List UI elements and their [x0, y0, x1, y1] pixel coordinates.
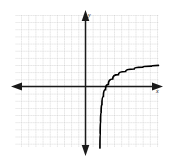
graph-figure: y x [0, 0, 169, 163]
y-axis-arrow-down [82, 145, 90, 156]
y-axis-label: y [88, 12, 91, 18]
coordinate-plane-svg [0, 0, 169, 163]
grid [15, 15, 159, 147]
x-axis-label: x [156, 88, 159, 94]
